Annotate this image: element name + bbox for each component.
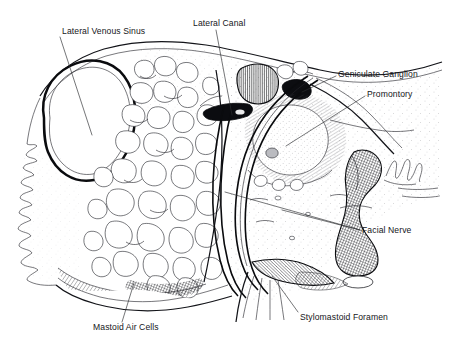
anatomical-figure-page: Lateral Venous Sinus Lateral Canal Genic… (0, 0, 450, 345)
label-lateral-venous-sinus: Lateral Venous Sinus (62, 26, 145, 36)
label-geniculate-ganglion: Geniculate Ganglion (338, 69, 418, 79)
label-mastoid-air-cells: Mastoid Air Cells (93, 322, 159, 332)
canal-lumen-highlight (235, 109, 244, 114)
temporal-bone-diagram: Lateral Venous Sinus Lateral Canal Genic… (0, 0, 450, 345)
label-lateral-canal: Lateral Canal (193, 18, 245, 28)
label-stylomastoid-foramen: Stylomastoid Foramen (300, 312, 388, 322)
round-window-niche (266, 148, 278, 158)
process-inferior-tip (343, 276, 373, 288)
label-promontory: Promontory (367, 89, 413, 99)
label-facial-nerve: Facial Nerve (362, 225, 412, 235)
